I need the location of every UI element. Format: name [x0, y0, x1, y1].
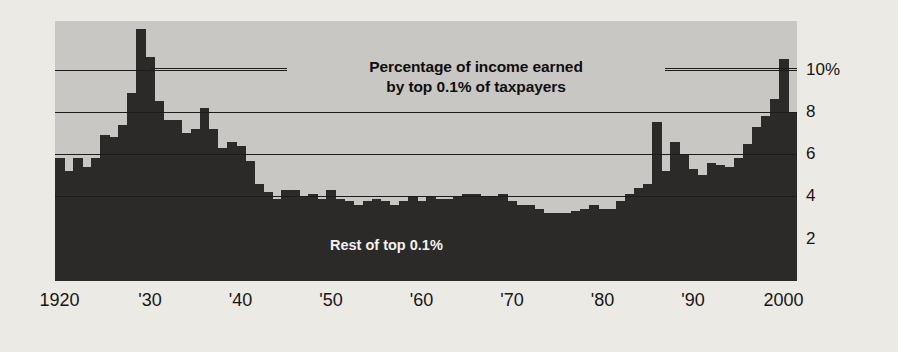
y-tick-label: 6: [806, 144, 815, 164]
inline-series-label: Rest of top 0.1%: [330, 237, 443, 253]
gridline: [665, 70, 797, 71]
gridline: [55, 112, 797, 113]
plot-area: Percentage of income earned by top 0.1% …: [55, 21, 797, 281]
gridline: [55, 70, 287, 71]
x-tick-label: '90: [681, 290, 704, 311]
chart-figure: Percentage of income earned by top 0.1% …: [0, 0, 898, 352]
x-tick-label: 2000: [763, 290, 803, 311]
x-tick-label: '60: [410, 290, 433, 311]
y-tick-label: 4: [806, 186, 815, 206]
y-tick-label: 8: [806, 102, 815, 122]
x-tick-label: '40: [229, 290, 252, 311]
y-tick-label: 10%: [806, 60, 840, 80]
x-tick-label: '30: [138, 290, 161, 311]
leader-line: [150, 68, 287, 69]
callout-line-1: Percentage of income earned: [287, 57, 665, 77]
x-tick-label: '50: [319, 290, 342, 311]
x-tick-label: '80: [591, 290, 614, 311]
leader-line: [665, 68, 797, 69]
chart-title-callout: Percentage of income earned by top 0.1% …: [287, 57, 665, 97]
gridline: [55, 154, 797, 155]
gridline: [55, 196, 797, 197]
x-tick-label: '70: [500, 290, 523, 311]
y-tick-label: 2: [806, 229, 815, 249]
x-tick-label: 1920: [39, 290, 79, 311]
callout-line-2: by top 0.1% of taxpayers: [287, 77, 665, 97]
